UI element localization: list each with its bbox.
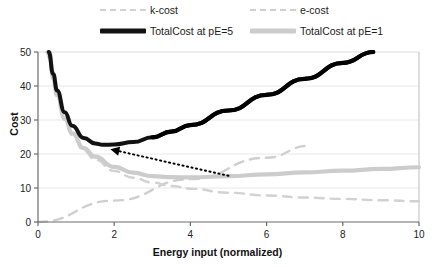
y-tick-label-10: 10 <box>20 183 32 194</box>
x-tick-label-6: 6 <box>264 229 270 240</box>
x-tick-label-8: 8 <box>340 229 346 240</box>
y-tick-label-40: 40 <box>20 81 32 92</box>
y-tick-label-50: 50 <box>20 47 32 58</box>
x-tick-label-10: 10 <box>413 229 425 240</box>
y-axis-title: Cost <box>8 94 20 154</box>
y-tick-label-20: 20 <box>20 149 32 160</box>
plot-area: 010203040500246810 Cost Energy input (no… <box>0 0 435 267</box>
y-tick-label-30: 30 <box>20 115 32 126</box>
x-tick-label-4: 4 <box>188 229 194 240</box>
y-tick-label-0: 0 <box>25 217 31 228</box>
chart-figure: k-cost e-cost TotalCost at pE=5 TotalCos… <box>0 0 435 267</box>
x-tick-label-2: 2 <box>111 229 117 240</box>
x-tick-label-0: 0 <box>35 229 41 240</box>
x-axis-title: Energy input (normalized) <box>0 246 435 258</box>
chart-canvas: 010203040500246810 <box>0 0 435 267</box>
